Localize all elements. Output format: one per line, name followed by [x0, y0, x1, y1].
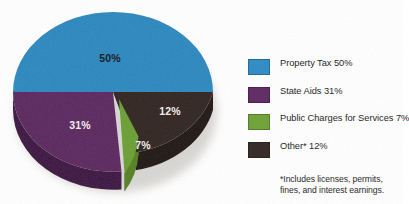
pie-chart: 50% 31% 12% 7%: [0, 0, 232, 204]
pie-chart-svg: [0, 0, 232, 204]
legend-swatch-other: [248, 142, 270, 158]
legend-label-state-aids: State Aids 31%: [280, 86, 342, 96]
legend-label-property-tax: Property Tax 50%: [280, 58, 352, 68]
footnote-line-1: *Includes licenses, permits,: [280, 174, 400, 185]
legend-item-state-aids: State Aids 31%: [248, 83, 400, 111]
legend-label-public-charges: Public Charges for Services 7%: [280, 113, 409, 123]
legend-item-other: Other* 12%: [248, 138, 400, 166]
legend-swatch-property-tax: [248, 59, 270, 75]
legend-swatch-state-aids: [248, 87, 270, 103]
legend-item-public-charges: Public Charges for Services 7%: [248, 110, 400, 138]
chart-legend: Property Tax 50% State Aids 31% Public C…: [248, 55, 400, 165]
legend-swatch-public-charges: [248, 114, 270, 130]
footnote-line-2: fines, and interest earnings.: [280, 185, 400, 196]
slice-top-property-tax: [13, 12, 213, 92]
slice-top-state-aids: [13, 92, 122, 172]
legend-label-other: Other* 12%: [280, 141, 328, 151]
legend-item-property-tax: Property Tax 50%: [248, 55, 400, 83]
chart-footnote: *Includes licenses, permits, fines, and …: [280, 174, 400, 195]
